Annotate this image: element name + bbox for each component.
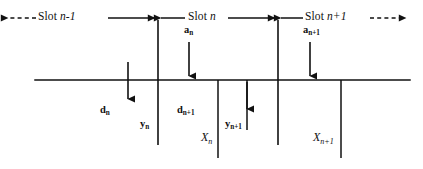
label-d-n: dn	[100, 105, 110, 116]
slot-label-n-plus-1: Slot n+1	[305, 11, 346, 23]
label-a-n-plus-1-sub: n+1	[308, 29, 320, 37]
label-y-n-sub: n	[145, 123, 149, 131]
slot-label-n-minus-1: Slot n-1	[38, 11, 76, 23]
slot-label-n-text: Slot	[188, 10, 210, 22]
label-x-n-plus-1-sub: n+1	[320, 137, 333, 146]
label-y-n-plus-1: yn+1	[225, 119, 242, 130]
label-x-n-plus-1: Xn+1	[313, 131, 334, 143]
slot-timing-diagram: Slot n-1 Slot n Slot n+1 an an+1 dn yn d…	[0, 0, 423, 169]
slot-label-n-plus-1-index: n+1	[327, 10, 347, 22]
label-x-n: Xn	[201, 131, 212, 143]
label-d-n-plus-1-base: d	[177, 104, 183, 115]
label-y-n: yn	[140, 119, 149, 130]
label-d-n-base: d	[100, 104, 106, 115]
label-a-n-sub: n	[189, 29, 193, 37]
label-d-n-plus-1-sub: n+1	[183, 109, 195, 117]
label-a-n-plus-1: an+1	[303, 25, 320, 36]
label-x-n-sub: n	[208, 137, 212, 146]
label-a-n: an	[184, 25, 193, 36]
slot-label-n-index: n	[210, 10, 216, 22]
label-y-n-plus-1-sub: n+1	[230, 123, 242, 131]
slot-label-n-minus-1-index: n-1	[60, 10, 76, 22]
slot-label-n-plus-1-text: Slot	[305, 10, 327, 22]
slot-label-n: Slot n	[188, 11, 216, 23]
label-d-n-sub: n	[106, 109, 110, 117]
label-d-n-plus-1: dn+1	[177, 105, 195, 116]
slot-label-n-minus-1-text: Slot	[38, 10, 60, 22]
